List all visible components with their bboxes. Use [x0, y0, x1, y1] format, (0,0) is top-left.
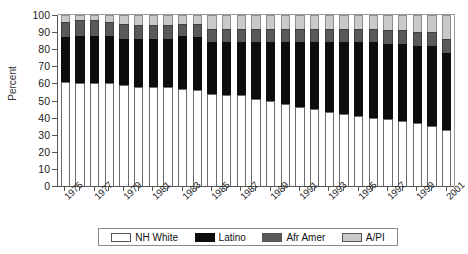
bar-segment	[222, 95, 231, 186]
bar-segment	[134, 87, 143, 186]
bar-segment	[325, 29, 334, 43]
x-tick	[372, 186, 373, 191]
y-tick	[52, 186, 57, 187]
bar-segment	[207, 15, 216, 29]
bar-segment	[75, 83, 84, 186]
bar-segment	[310, 42, 319, 109]
bar-segment	[178, 36, 187, 89]
bar-segment	[237, 42, 246, 95]
bar-segment	[398, 44, 407, 121]
bar-segment	[354, 42, 363, 116]
bar-segment	[427, 46, 436, 126]
y-tick-label: 30	[38, 129, 50, 140]
x-tick	[196, 186, 197, 191]
x-tick	[402, 186, 403, 191]
bar-segment	[193, 15, 202, 24]
bar-segment	[178, 89, 187, 186]
bar-segment	[207, 94, 216, 186]
bar-segment	[442, 15, 451, 39]
bar-segment	[369, 15, 378, 29]
bar-segment	[149, 15, 158, 25]
legend-item: Latino	[195, 232, 246, 243]
bar-segment	[61, 15, 70, 22]
bar-segment	[310, 29, 319, 43]
bar-segment	[354, 29, 363, 43]
y-tick	[52, 66, 57, 67]
bar-segment	[442, 130, 451, 186]
plot-area	[57, 15, 454, 187]
bar-segment	[134, 15, 143, 25]
stacked-bar-chart: Percent 0102030405060708090100 197519771…	[0, 0, 468, 254]
bar-segment	[119, 15, 128, 24]
bar-segment	[149, 87, 158, 186]
bar-segment	[325, 42, 334, 112]
bar-segment	[369, 118, 378, 186]
bar-segment	[222, 15, 231, 29]
bar-segment	[295, 42, 304, 107]
bar-segment	[149, 25, 158, 39]
bar-segment	[281, 29, 290, 43]
y-tick-label: 0	[44, 181, 50, 192]
bar-segment	[119, 85, 128, 186]
bar-segment	[383, 30, 392, 44]
bar-segment	[339, 15, 348, 29]
y-tick	[52, 169, 57, 170]
bar-segment	[281, 42, 290, 104]
bar-segment	[398, 15, 407, 30]
y-tick	[52, 15, 57, 16]
bar-segment	[193, 37, 202, 90]
bar-segment	[310, 15, 319, 29]
bar-segment	[90, 20, 99, 35]
y-tick	[52, 83, 57, 84]
bar-segment	[163, 87, 172, 186]
bar-segment	[295, 15, 304, 29]
bar-segment	[383, 44, 392, 119]
legend-item: A/PI	[342, 232, 385, 243]
bar-segment	[105, 15, 114, 22]
bar-segment	[413, 15, 422, 32]
bar-segment	[163, 39, 172, 87]
bar-segment	[61, 22, 70, 37]
bar-segment	[442, 53, 451, 130]
x-tick	[226, 186, 227, 191]
x-tick	[167, 186, 168, 191]
x-tick	[431, 186, 432, 191]
bar-segment	[266, 42, 275, 100]
bar-segment	[222, 42, 231, 95]
bar-segment	[75, 20, 84, 35]
x-tick	[284, 186, 285, 191]
bar-segment	[427, 32, 436, 46]
bar-segment	[251, 99, 260, 186]
bar-segment	[105, 36, 114, 84]
bar-segment	[310, 109, 319, 186]
x-tick	[108, 186, 109, 191]
bar-segment	[339, 114, 348, 186]
bar-segment	[237, 95, 246, 186]
plot-right-border	[454, 14, 455, 186]
bar-segment	[281, 15, 290, 29]
bar-segment	[105, 83, 114, 186]
bar-segment	[134, 25, 143, 39]
bar-segment	[105, 22, 114, 36]
y-tick-label: 100	[32, 10, 50, 21]
bar-segment	[163, 25, 172, 39]
bar-segment	[134, 39, 143, 87]
bar-segment	[251, 42, 260, 98]
bar-segment	[413, 32, 422, 46]
bar-segment	[398, 121, 407, 186]
bar-segment	[61, 82, 70, 186]
bar-segment	[193, 90, 202, 186]
bar-segment	[90, 36, 99, 84]
bar-segment	[398, 30, 407, 44]
bar-segment	[281, 104, 290, 186]
bar-segment	[413, 46, 422, 123]
y-tick-label: 40	[38, 112, 50, 123]
bar-segment	[193, 24, 202, 38]
bar-segment	[90, 15, 99, 20]
x-tick	[255, 186, 256, 191]
bar-segment	[325, 112, 334, 186]
bar-segment	[237, 15, 246, 29]
bar-segment	[163, 15, 172, 25]
bar-segment	[383, 15, 392, 30]
bar-segment	[90, 83, 99, 186]
